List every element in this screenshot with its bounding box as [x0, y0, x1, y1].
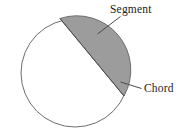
- circle-segment-diagram: Segment Chord: [0, 0, 191, 138]
- segment-label: Segment: [110, 3, 152, 16]
- chord-label: Chord: [144, 82, 174, 94]
- geometry-figure: Segment Chord: [0, 0, 191, 138]
